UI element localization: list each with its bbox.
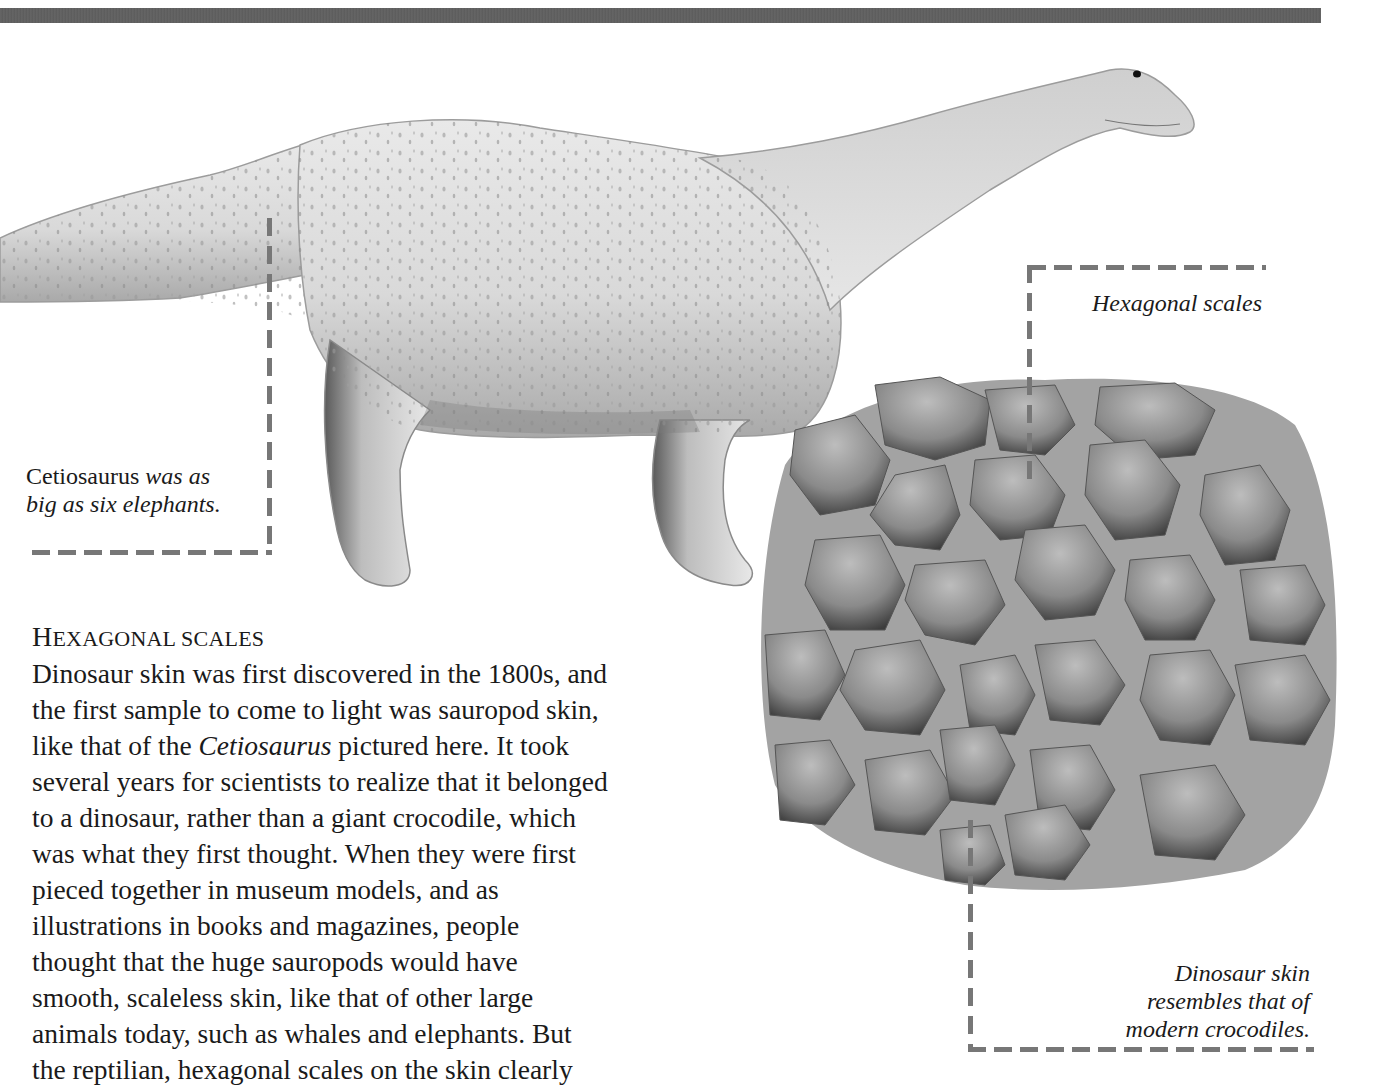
cetiosaurus-caption-line2: big as six elephants.: [26, 491, 221, 517]
dinosaur-skin-leader-line-vertical: [968, 820, 973, 1052]
dinosaur-skin-caption: Dinosaur skin resembles that of modern c…: [1060, 959, 1310, 1043]
cetiosaurus-caption-line1-rest: was as: [139, 463, 210, 489]
dinosaur-skin-caption-line2: resembles that of: [1147, 988, 1310, 1014]
article-body: Dinosaur skin was first discovered in th…: [32, 656, 712, 1088]
cetiosaurus-caption: Cetiosaurus was as big as six elephants.: [26, 462, 266, 518]
article-heading-initial: H: [32, 621, 52, 652]
hexagonal-scales-caption: Hexagonal scales: [1060, 289, 1262, 317]
article-heading-rest-2: SCALES: [175, 626, 264, 651]
article-body-italic-species: Cetiosaurus: [198, 730, 331, 761]
top-rule-bar: [0, 8, 1321, 23]
dinosaur-skin-caption-line3: modern crocodiles.: [1126, 1016, 1310, 1042]
cetiosaurus-caption-name: Cetiosaurus: [26, 463, 139, 489]
article-heading-rest: EXAGONAL: [52, 626, 175, 651]
article-heading: HEXAGONAL SCALES: [32, 622, 712, 654]
article: HEXAGONAL SCALES Dinosaur skin was first…: [32, 622, 712, 1088]
article-body-part2: pictured here. It took several years for…: [32, 730, 608, 1085]
hexagonal-scales-leader-line-horizontal: [1028, 265, 1266, 270]
dinosaur-skin-caption-line1: Dinosaur skin: [1175, 960, 1310, 986]
dinosaur-skin-leader-line-horizontal: [968, 1047, 1314, 1052]
cetiosaurus-leader-line-vertical: [267, 218, 272, 554]
hexagonal-scales-leader-line-vertical: [1027, 265, 1032, 485]
hexagonal-scale-skin-illustration: [745, 365, 1345, 905]
cetiosaurus-leader-line-horizontal: [32, 550, 272, 555]
